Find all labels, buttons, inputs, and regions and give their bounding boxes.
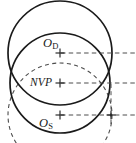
label-nvp: NVP	[30, 77, 52, 89]
circle-optic-sphere	[8, 63, 112, 143]
label-optic-disc-subscript: D	[52, 41, 58, 51]
center-marker-optic-sphere	[56, 111, 65, 120]
center-marker-right-node	[107, 111, 116, 120]
label-optic-sphere-subscript: S	[48, 121, 53, 131]
label-optic-disc: OD	[43, 37, 58, 50]
geometry-diagram	[0, 0, 136, 143]
label-optic-sphere-symbol: O	[39, 116, 48, 130]
center-marker-nvp	[56, 79, 65, 88]
figure-root: OD NVP OS	[0, 0, 136, 143]
label-optic-sphere: OS	[39, 117, 53, 130]
label-optic-disc-symbol: O	[43, 36, 52, 50]
label-nvp-symbol: NVP	[30, 76, 52, 88]
